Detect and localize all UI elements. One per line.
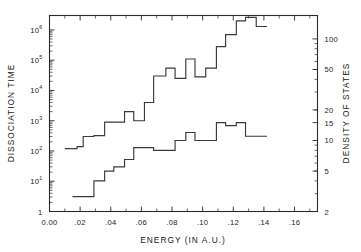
y-tick-label: 104: [30, 84, 42, 95]
y-tick-label: 101: [30, 175, 42, 186]
x-tick-label: .14: [258, 218, 269, 227]
y2-tick-label: 5: [325, 167, 330, 176]
y-tick-label: 105: [30, 54, 42, 65]
x-tick-label: 0.00: [42, 218, 58, 227]
y-tick-label: 103: [30, 115, 42, 126]
x-tick-label: .10: [197, 218, 208, 227]
x-tick-label: .02: [74, 218, 85, 227]
x-tick-label: .12: [228, 218, 239, 227]
y2-tick-label: 100: [325, 35, 339, 44]
x-tick-label: .06: [136, 218, 147, 227]
figure-container: 0.00.02.04.06.08.10.12.14.16110110210310…: [0, 0, 361, 252]
y2-axis-title: DENSITY OF STATES: [341, 63, 351, 164]
y2-tick-label: 15: [325, 119, 334, 128]
y-tick-label: 102: [30, 145, 42, 156]
y-tick-label: 1: [38, 208, 43, 217]
y2-tick-label: 20: [325, 106, 334, 115]
y-axis-title: DISSOCIATION TIME: [6, 64, 16, 163]
dissociation-time-chart: 0.00.02.04.06.08.10.12.14.16110110210310…: [0, 0, 361, 252]
x-tick-label: .04: [105, 218, 116, 227]
y-tick-label: 106: [30, 24, 42, 35]
x-axis-title: ENERGY (IN A.U.): [140, 235, 226, 245]
plot-frame: [50, 16, 318, 212]
y2-tick-label: 2: [325, 208, 330, 217]
y2-tick-label: 10: [325, 136, 334, 145]
axis-ticks: [50, 16, 318, 212]
dissociation-time-curve: [65, 17, 267, 148]
y2-tick-label: 50: [325, 65, 334, 74]
x-tick-label: .16: [289, 218, 300, 227]
x-tick-label: .08: [166, 218, 177, 227]
density-of-states-curve: [72, 123, 266, 197]
